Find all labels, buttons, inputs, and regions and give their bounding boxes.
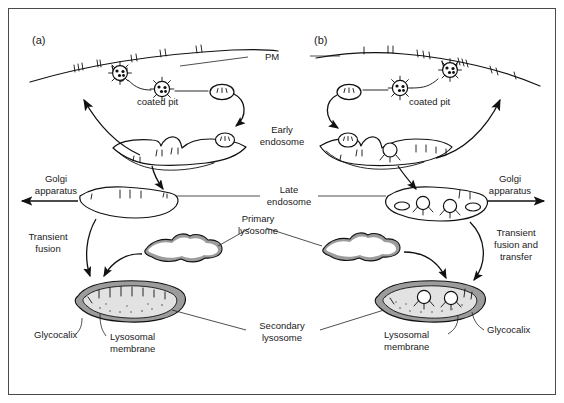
label-coated-pit-a: coated pit xyxy=(137,96,179,107)
label-secondary-lysosome-line2: lysosome xyxy=(262,332,302,343)
panel-a-plasma-membrane xyxy=(30,45,278,82)
label-lysosomal-membrane-a-line2: membrane xyxy=(110,343,155,354)
coated-pit-vesicle-a-attached xyxy=(109,62,132,85)
arrow-early-to-late-endosome-b xyxy=(398,166,416,189)
arrow-transient-fusion-b xyxy=(404,252,446,278)
arrow-late-endosome-to-secondary-lysosome-a xyxy=(87,219,96,276)
early-endosome-b xyxy=(320,133,452,169)
panel-label-a: (a) xyxy=(32,34,45,46)
budding-path-b xyxy=(412,79,438,88)
label-late-endosome-line1: Late xyxy=(280,184,299,195)
endocytosis-pathway-figure: (a) (b) PM coated pit coated pit Early e… xyxy=(0,0,564,403)
label-transient-fusion-a-line1: Transient xyxy=(28,231,68,242)
label-early-endosome-line1: Early xyxy=(271,124,293,135)
label-transient-fusion-b-line3: transfer xyxy=(500,251,532,262)
budding-path-a xyxy=(128,80,151,90)
secondary-lysosome-b xyxy=(375,281,485,322)
glycocalix-spikes-b xyxy=(364,46,516,79)
primary-lysosome-b xyxy=(323,233,400,261)
label-secondary-lysosome-line1: Secondary xyxy=(259,320,305,331)
leader-secondary-lysosome-a xyxy=(172,310,246,330)
label-glycocalix-a: Glycocalix xyxy=(34,329,78,340)
secondary-lysosome-a xyxy=(75,281,185,322)
label-lysosomal-membrane-b-line2: membrane xyxy=(384,341,429,352)
label-transient-fusion-a-line2: fusion xyxy=(35,243,60,254)
label-lysosomal-membrane-a-line1: Lysosomal xyxy=(110,331,155,342)
leader-pm-a xyxy=(180,57,248,66)
uncoated-vesicle-b xyxy=(337,84,361,99)
coated-pit-vesicle-b-attached xyxy=(439,59,462,82)
arrow-vesicle-to-early-endosome-a xyxy=(234,94,244,126)
label-golgi-b-line2: apparatus xyxy=(489,185,532,196)
leader-secondary-lysosome-b xyxy=(320,310,384,330)
label-coated-pit-b: coated pit xyxy=(409,96,451,107)
late-endosome-b xyxy=(386,187,488,221)
late-endosome-a xyxy=(80,187,178,218)
arrow-transient-fusion-a xyxy=(104,254,142,276)
label-golgi-a-line1: Golgi xyxy=(45,173,67,184)
label-transient-fusion-b-line1: Transient xyxy=(496,227,536,238)
arrow-late-endosome-to-secondary-lysosome-b xyxy=(470,222,483,280)
primary-lysosome-a xyxy=(145,234,222,262)
arrow-recycling-to-pm-a xyxy=(84,100,140,155)
panel-b-plasma-membrane xyxy=(316,46,540,86)
panel-label-b: (b) xyxy=(314,34,327,46)
late-endosome-spikes-a xyxy=(91,190,167,199)
arrow-vesicle-to-early-endosome-b xyxy=(327,95,338,128)
label-primary-lysosome-line1: Primary xyxy=(242,213,275,224)
label-glycocalix-b: Glycocalix xyxy=(487,324,531,335)
diagram-canvas: (a) (b) PM coated pit coated pit Early e… xyxy=(0,0,564,403)
label-late-endosome-line2: endosome xyxy=(267,196,311,207)
uncoated-vesicle-a xyxy=(210,84,234,99)
label-golgi-b-line1: Golgi xyxy=(499,173,521,184)
label-primary-lysosome-line2: lysosome xyxy=(238,225,278,236)
label-early-endosome-line2: endosome xyxy=(260,136,304,147)
label-pm: PM xyxy=(265,51,279,62)
label-lysosomal-membrane-b-line1: Lysosomal xyxy=(384,329,429,340)
label-transient-fusion-b-line2: fusion and xyxy=(494,239,538,250)
label-golgi-a-line2: apparatus xyxy=(35,185,78,196)
